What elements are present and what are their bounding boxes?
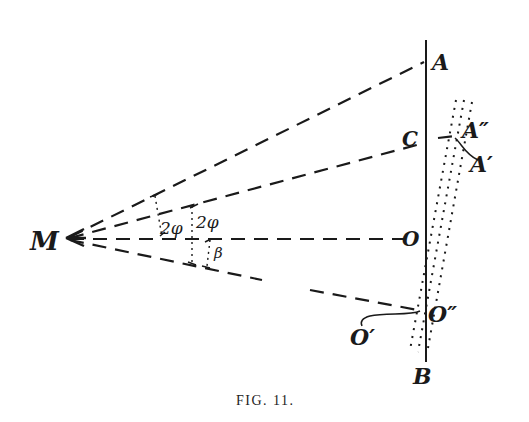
figure-caption: FIG. 11.	[236, 393, 295, 408]
optics-diagram: M A C O O″ O′ A″ A′ B 2φ 2φ β FIG. 11.	[0, 0, 529, 422]
label-a-double-prime: A″	[460, 117, 489, 143]
ray-m-lower-1	[70, 240, 262, 280]
ray-m-a	[70, 62, 424, 237]
label-c: C	[402, 127, 418, 151]
label-a: A	[430, 49, 449, 75]
angle-label-beta: β	[213, 244, 223, 262]
ray-a-prime	[438, 136, 456, 138]
label-m: M	[29, 226, 60, 256]
dashed-rays	[70, 62, 456, 310]
angle-label-2phi-2: 2φ	[195, 212, 219, 232]
label-o-prime: O′	[350, 324, 375, 350]
label-b: B	[412, 363, 432, 389]
label-o-double-prime: O″	[428, 301, 457, 327]
ray-m-lower-2	[310, 290, 418, 310]
angle-label-2phi-1: 2φ	[159, 218, 183, 238]
label-o: O	[402, 227, 420, 251]
ray-m-c	[70, 143, 424, 238]
label-a-prime: A′	[468, 151, 493, 177]
